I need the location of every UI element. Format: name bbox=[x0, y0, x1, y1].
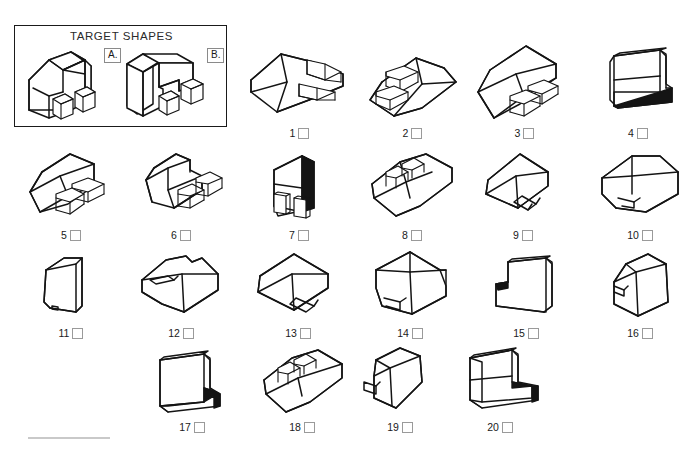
shape-caption-6[interactable]: 6 bbox=[134, 228, 228, 241]
shape-item-15[interactable]: 15 bbox=[482, 248, 570, 324]
worksheet-page: TARGET SHAPES A. B. bbox=[0, 0, 692, 449]
shape-caption-3[interactable]: 3 bbox=[472, 126, 577, 139]
shape-checkbox-15[interactable] bbox=[528, 328, 539, 339]
shape-item-16[interactable]: 16 bbox=[596, 248, 684, 324]
target-shape-b bbox=[119, 46, 219, 124]
shape-number-9: 9 bbox=[513, 229, 519, 241]
shape-item-10[interactable]: 10 bbox=[594, 146, 686, 226]
shape-caption-10[interactable]: 10 bbox=[594, 228, 686, 241]
shape-checkbox-8[interactable] bbox=[411, 230, 422, 241]
shape-checkbox-10[interactable] bbox=[642, 230, 653, 241]
shape-caption-18[interactable]: 18 bbox=[252, 420, 352, 433]
shape-caption-14[interactable]: 14 bbox=[364, 326, 456, 339]
target-shape-a bbox=[23, 44, 113, 124]
shape-item-5[interactable]: 5 bbox=[24, 146, 118, 226]
shape-number-19: 19 bbox=[387, 421, 399, 433]
shape-item-13[interactable]: 13 bbox=[252, 248, 344, 324]
shape-checkbox-12[interactable] bbox=[183, 328, 194, 339]
shape-number-16: 16 bbox=[627, 327, 639, 339]
shape-caption-2[interactable]: 2 bbox=[360, 126, 465, 139]
shape-checkbox-9[interactable] bbox=[522, 230, 533, 241]
shape-caption-9[interactable]: 9 bbox=[478, 228, 568, 241]
shape-caption-12[interactable]: 12 bbox=[132, 326, 230, 339]
shape-checkbox-2[interactable] bbox=[411, 128, 422, 139]
shape-caption-11[interactable]: 11 bbox=[30, 326, 112, 339]
shape-checkbox-1[interactable] bbox=[298, 128, 309, 139]
shape-number-15: 15 bbox=[513, 327, 525, 339]
shape-number-1: 1 bbox=[290, 127, 296, 139]
shape-checkbox-4[interactable] bbox=[637, 128, 648, 139]
shape-checkbox-13[interactable] bbox=[300, 328, 311, 339]
shape-caption-7[interactable]: 7 bbox=[256, 228, 342, 241]
shape-number-20: 20 bbox=[487, 421, 499, 433]
shape-caption-1[interactable]: 1 bbox=[247, 126, 352, 139]
shape-item-11[interactable]: 11 bbox=[30, 248, 112, 324]
shape-item-7[interactable]: 7 bbox=[256, 146, 342, 226]
shape-checkbox-11[interactable] bbox=[72, 328, 83, 339]
shape-number-13: 13 bbox=[285, 327, 297, 339]
shape-item-6[interactable]: 6 bbox=[134, 146, 228, 226]
shape-number-10: 10 bbox=[627, 229, 639, 241]
shape-item-12[interactable]: 12 bbox=[132, 248, 230, 324]
shape-checkbox-16[interactable] bbox=[642, 328, 653, 339]
shape-caption-8[interactable]: 8 bbox=[362, 228, 462, 241]
shape-number-2: 2 bbox=[403, 127, 409, 139]
shape-checkbox-20[interactable] bbox=[502, 422, 513, 433]
target-shapes-panel: TARGET SHAPES A. B. bbox=[14, 25, 227, 127]
shape-number-17: 17 bbox=[179, 421, 191, 433]
shape-number-5: 5 bbox=[61, 229, 67, 241]
shape-number-3: 3 bbox=[515, 127, 521, 139]
shape-checkbox-3[interactable] bbox=[523, 128, 534, 139]
shape-item-3[interactable]: 3 bbox=[472, 30, 577, 124]
target-shapes-title: TARGET SHAPES bbox=[15, 30, 228, 42]
shape-item-8[interactable]: 8 bbox=[362, 146, 462, 226]
shape-caption-19[interactable]: 19 bbox=[356, 420, 444, 433]
shape-number-12: 12 bbox=[168, 327, 180, 339]
shape-checkbox-7[interactable] bbox=[298, 230, 309, 241]
shape-item-9[interactable]: 9 bbox=[478, 146, 568, 226]
footer-divider bbox=[28, 437, 110, 439]
shape-checkbox-17[interactable] bbox=[194, 422, 205, 433]
shape-number-18: 18 bbox=[289, 421, 301, 433]
shape-number-8: 8 bbox=[402, 229, 408, 241]
shape-caption-15[interactable]: 15 bbox=[482, 326, 570, 339]
shape-item-18[interactable]: 18 bbox=[252, 340, 352, 418]
shape-checkbox-5[interactable] bbox=[70, 230, 81, 241]
shape-item-1[interactable]: 1 bbox=[247, 34, 352, 124]
shape-caption-16[interactable]: 16 bbox=[596, 326, 684, 339]
shape-caption-20[interactable]: 20 bbox=[452, 420, 548, 433]
shape-item-17[interactable]: 17 bbox=[146, 344, 238, 418]
shape-item-19[interactable]: 19 bbox=[356, 340, 444, 418]
shape-checkbox-6[interactable] bbox=[180, 230, 191, 241]
shape-caption-5[interactable]: 5 bbox=[24, 228, 118, 241]
shape-item-2[interactable]: 2 bbox=[360, 34, 465, 124]
shape-number-11: 11 bbox=[59, 327, 70, 339]
shape-checkbox-18[interactable] bbox=[304, 422, 315, 433]
shape-caption-17[interactable]: 17 bbox=[146, 420, 238, 433]
shape-number-6: 6 bbox=[171, 229, 177, 241]
shape-caption-13[interactable]: 13 bbox=[252, 326, 344, 339]
shape-number-4: 4 bbox=[628, 127, 634, 139]
shape-caption-4[interactable]: 4 bbox=[588, 126, 688, 139]
shape-number-7: 7 bbox=[289, 229, 295, 241]
shape-number-14: 14 bbox=[397, 327, 409, 339]
shape-checkbox-19[interactable] bbox=[402, 422, 413, 433]
shape-item-14[interactable]: 14 bbox=[364, 248, 456, 324]
shape-item-20[interactable]: 20 bbox=[452, 340, 548, 418]
shape-item-4[interactable]: 4 bbox=[588, 36, 688, 124]
shape-checkbox-14[interactable] bbox=[412, 328, 423, 339]
